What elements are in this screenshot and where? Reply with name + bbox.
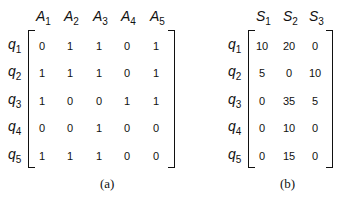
column-header-letter: S: [256, 8, 265, 24]
column-header: A4: [121, 8, 136, 27]
column-header-letter: S: [283, 8, 292, 24]
matrix-cell: 0: [144, 122, 168, 134]
row-header-letter: q: [8, 91, 16, 107]
row-header-subscript: 3: [236, 99, 242, 110]
row-header: q1: [8, 36, 21, 55]
row-header: q2: [8, 63, 21, 82]
matrix-cell: 1: [30, 67, 54, 79]
row-header-subscript: 1: [236, 44, 242, 55]
row-header-subscript: 5: [16, 154, 22, 165]
matrix-cell: 0: [303, 40, 327, 52]
matrix-cell: 0: [303, 122, 327, 134]
matrix-cell: 1: [115, 95, 139, 107]
column-header-subscript: 1: [45, 16, 51, 27]
matrix-cell: 1: [87, 40, 111, 52]
matrix-cell: 1: [144, 40, 168, 52]
matrix-cell: 1: [144, 95, 168, 107]
matrix-cell: 0: [30, 122, 54, 134]
column-header-letter: A: [93, 8, 102, 24]
matrix-cell: 35: [277, 95, 301, 107]
column-header-subscript: 4: [130, 16, 136, 27]
column-header-subscript: 2: [292, 16, 298, 27]
row-header: q1: [228, 36, 241, 55]
matrix-cell: 0: [250, 122, 274, 134]
figure-caption: (a): [100, 176, 114, 192]
matrix-cell: 1: [30, 150, 54, 162]
figure-caption: (b): [280, 176, 295, 192]
matrix-cell: 1: [144, 67, 168, 79]
row-header: q5: [228, 146, 241, 165]
row-header: q3: [8, 91, 21, 110]
matrix-cell: 10: [303, 67, 327, 79]
matrix-cell: 5: [303, 95, 327, 107]
row-header-letter: q: [228, 146, 236, 162]
row-header-subscript: 2: [236, 71, 242, 82]
matrix-cell: 0: [115, 67, 139, 79]
matrix-cell: 0: [115, 122, 139, 134]
row-header-subscript: 2: [16, 71, 22, 82]
matrix-cell: 1: [87, 67, 111, 79]
row-header: q3: [228, 91, 241, 110]
row-header-letter: q: [228, 91, 236, 107]
row-header-letter: q: [228, 118, 236, 134]
column-header-letter: S: [309, 8, 318, 24]
matrix-cell: 10: [277, 122, 301, 134]
column-header-subscript: 2: [73, 16, 79, 27]
row-header-letter: q: [8, 36, 16, 52]
matrix-cell: 15: [277, 150, 301, 162]
row-header-subscript: 5: [236, 154, 242, 165]
row-header: q4: [228, 118, 241, 137]
matrix-cell: 0: [115, 150, 139, 162]
row-header: q4: [8, 118, 21, 137]
matrix-cell: 0: [87, 95, 111, 107]
row-header-subscript: 4: [236, 126, 242, 137]
row-header-subscript: 4: [16, 126, 22, 137]
right-bracket: [168, 30, 175, 168]
matrix-cell: 0: [250, 150, 274, 162]
column-header: S2: [283, 8, 298, 27]
column-header-letter: A: [64, 8, 73, 24]
row-header-letter: q: [228, 63, 236, 79]
matrix-cell: 0: [250, 95, 274, 107]
matrix-cell: 1: [87, 150, 111, 162]
right-bracket: [326, 30, 333, 168]
column-header-letter: A: [150, 8, 159, 24]
matrix-cell: 5: [250, 67, 274, 79]
matrix-cell: 1: [87, 122, 111, 134]
column-header: S3: [309, 8, 324, 27]
column-header: S1: [256, 8, 271, 27]
row-header-letter: q: [8, 118, 16, 134]
matrix-cell: 10: [250, 40, 274, 52]
column-header-subscript: 1: [265, 16, 271, 27]
column-header-letter: A: [121, 8, 130, 24]
column-header: A2: [64, 8, 79, 27]
matrix-cell: 1: [58, 150, 82, 162]
matrix-cell: 20: [277, 40, 301, 52]
matrix-cell: 0: [115, 40, 139, 52]
column-header-subscript: 3: [102, 16, 108, 27]
column-header: A3: [93, 8, 108, 27]
column-header: A1: [36, 8, 51, 27]
column-header: A5: [150, 8, 165, 27]
row-header: q5: [8, 146, 21, 165]
matrix-cell: 1: [30, 95, 54, 107]
column-header-letter: A: [36, 8, 45, 24]
matrix-cell: 1: [58, 40, 82, 52]
row-header-letter: q: [8, 146, 16, 162]
column-header-subscript: 3: [318, 16, 324, 27]
matrix-cell: 0: [277, 67, 301, 79]
row-header-subscript: 3: [16, 99, 22, 110]
row-header-letter: q: [228, 36, 236, 52]
column-header-subscript: 5: [159, 16, 165, 27]
row-header: q2: [228, 63, 241, 82]
matrix-cell: 1: [58, 67, 82, 79]
matrix-cell: 0: [58, 95, 82, 107]
matrix-cell: 0: [30, 40, 54, 52]
matrix-cell: 0: [58, 122, 82, 134]
matrix-cell: 0: [303, 150, 327, 162]
row-header-subscript: 1: [16, 44, 22, 55]
matrix-cell: 0: [144, 150, 168, 162]
row-header-letter: q: [8, 63, 16, 79]
